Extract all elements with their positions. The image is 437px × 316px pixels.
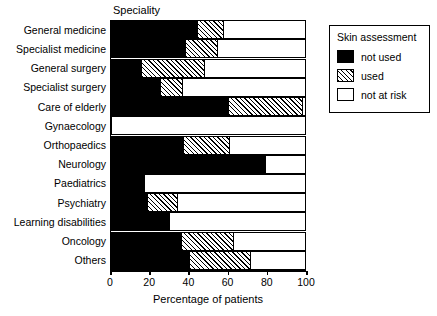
- bar-segment-used: [147, 194, 178, 211]
- bar-segment-not-used: [112, 98, 228, 115]
- legend-title: Skin assessment: [337, 31, 423, 44]
- bar-segment-used: [160, 79, 183, 96]
- y-axis-label: Others: [2, 254, 106, 266]
- legend-swatch-icon: [337, 50, 354, 63]
- y-axis-label: General surgery: [2, 62, 106, 74]
- bar-segment-not-at-risk: [111, 174, 306, 193]
- x-axis-tick-mark: [267, 271, 269, 275]
- y-axis-label: Gynaecology: [2, 120, 106, 132]
- y-axis-label: Neurology: [2, 158, 106, 170]
- bar-segment-used: [181, 233, 233, 250]
- bar-segment-not-used: [112, 233, 181, 250]
- x-axis-tick-label: 100: [297, 276, 315, 288]
- bar-segment-not-used: [112, 252, 189, 269]
- bar-segment-not-used: [112, 194, 147, 211]
- legend-entry[interactable]: used: [337, 66, 423, 85]
- bar-row: [111, 174, 306, 193]
- bar-row: [111, 116, 306, 135]
- bar-segment-used: [185, 40, 218, 57]
- x-axis-tick-label: 40: [183, 276, 195, 288]
- x-axis-tick-mark: [110, 271, 112, 275]
- bar-segment-not-at-risk: [111, 78, 306, 97]
- chart-y-axis-title: Speciality: [113, 4, 160, 16]
- bar-segment-not-at-risk: [111, 155, 306, 174]
- bar-row: [111, 232, 306, 251]
- bar-segment-not-at-risk: [111, 251, 306, 270]
- legend-swatch-icon: [337, 69, 354, 82]
- y-axis-label: Specialist surgery: [2, 81, 106, 93]
- bar-row: [111, 251, 306, 270]
- x-axis-tick-mark: [188, 271, 190, 275]
- bar-segment-not-used: [112, 60, 141, 77]
- y-axis-category-labels: General medicineSpecialist medicineGener…: [0, 20, 106, 270]
- bar-segment-not-used: [112, 213, 170, 230]
- bar-row: [111, 193, 306, 212]
- bar-segment-not-at-risk: [111, 97, 306, 116]
- bar-row: [111, 155, 306, 174]
- stacked-bar-chart: Speciality General medicineSpecialist me…: [0, 0, 437, 316]
- bar-row: [111, 136, 306, 155]
- bar-segment-not-used: [112, 79, 160, 96]
- y-axis-label: General medicine: [2, 24, 106, 36]
- legend-entry[interactable]: not at risk: [337, 85, 423, 104]
- bar-segment-not-at-risk: [111, 136, 306, 155]
- legend-entries: not usedusednot at risk: [337, 47, 423, 104]
- bar-segment-not-at-risk: [111, 193, 306, 212]
- bar-segment-used: [189, 252, 251, 269]
- bar-row: [111, 97, 306, 116]
- plot-area: [110, 20, 306, 270]
- bar-segment-not-used: [112, 21, 197, 38]
- y-axis-label: Oncology: [2, 235, 106, 247]
- legend-label: used: [361, 70, 384, 82]
- y-axis-label: Care of elderly: [2, 101, 106, 113]
- bar-segment-not-at-risk: [111, 20, 306, 39]
- bar-segment-used: [183, 137, 229, 154]
- legend: Skin assessment not usedusednot at risk: [329, 25, 430, 113]
- bar-row: [111, 212, 306, 231]
- y-axis-label: Orthopaedics: [2, 139, 106, 151]
- bar-row: [111, 78, 306, 97]
- bar-segment-used: [228, 98, 303, 115]
- bar-segment-not-used: [112, 40, 185, 57]
- bar-segment-used: [141, 60, 205, 77]
- y-axis-label: Paediatrics: [2, 177, 106, 189]
- legend-label: not used: [361, 51, 401, 63]
- x-axis-tick-label: 20: [143, 276, 155, 288]
- bar-row: [111, 39, 306, 58]
- y-axis-label: Specialist medicine: [2, 43, 106, 55]
- y-axis-label: Psychiatry: [2, 197, 106, 209]
- legend-label: not at risk: [361, 89, 407, 101]
- x-axis-tick-mark: [228, 271, 230, 275]
- bar-row: [111, 59, 306, 78]
- bar-segment-not-used: [112, 137, 183, 154]
- x-axis-title: Percentage of patients: [110, 293, 306, 306]
- bar-segment-used: [197, 21, 224, 38]
- bar-segment-not-at-risk: [111, 232, 306, 251]
- legend-entry[interactable]: not used: [337, 47, 423, 66]
- legend-swatch-icon: [337, 88, 354, 101]
- x-axis-tick-label: 0: [107, 276, 113, 288]
- bar-segment-not-at-risk: [111, 116, 306, 135]
- bar-row: [111, 20, 306, 39]
- bar-segment-not-at-risk: [111, 212, 306, 231]
- bar-segment-not-at-risk: [111, 59, 306, 78]
- x-axis-tick-mark: [149, 271, 151, 275]
- bar-segment-not-at-risk: [111, 39, 306, 58]
- bar-segment-not-used: [112, 156, 266, 173]
- x-axis-tick-mark: [306, 271, 308, 275]
- x-axis-ticks: 020406080100: [110, 271, 306, 291]
- y-axis-label: Learning disabilities: [2, 216, 106, 228]
- bar-segment-not-used: [112, 175, 145, 192]
- x-axis-tick-label: 80: [261, 276, 273, 288]
- x-axis-tick-label: 60: [222, 276, 234, 288]
